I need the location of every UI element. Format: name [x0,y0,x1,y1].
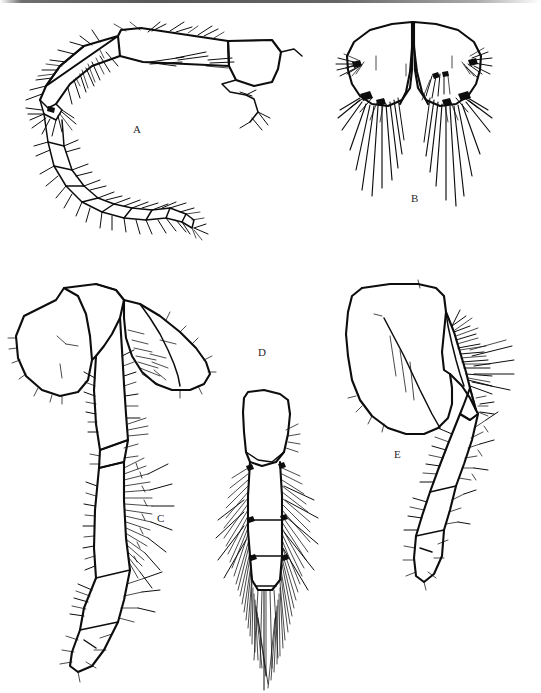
panel-d-drawing [216,390,318,690]
panel-label-a: A [133,124,141,135]
panel-label-d: D [258,347,266,358]
panel-label-b: B [411,193,419,204]
plate-drawing [0,0,541,693]
panel-label-c: C [157,513,165,524]
illustration-plate: A B C D E [0,0,541,693]
panel-a-drawing [26,22,302,240]
panel-e-drawing [346,280,514,590]
panel-label-e: E [394,449,401,460]
panel-b-drawing [336,22,492,206]
panel-c-drawing [8,284,216,682]
